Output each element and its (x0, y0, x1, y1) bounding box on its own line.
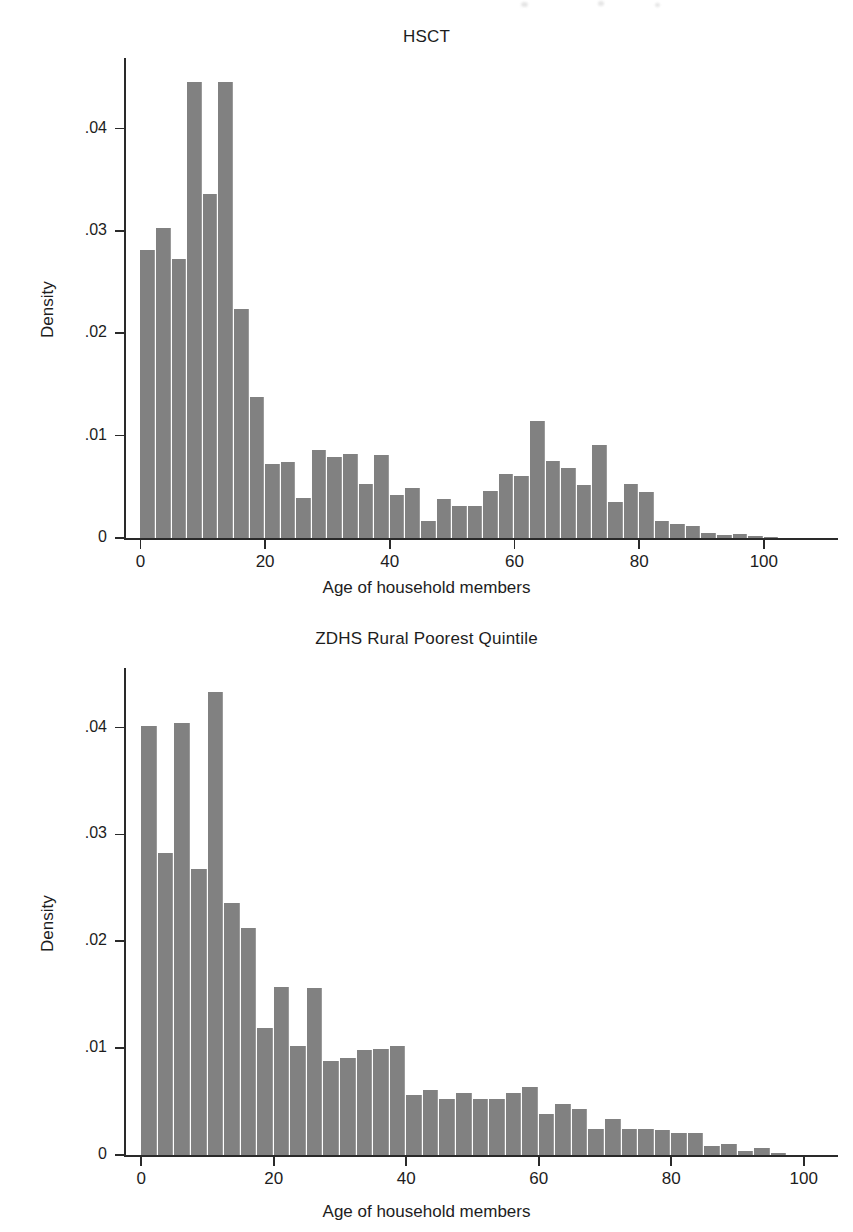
figure-page: HSCT 0.01.02.03.04020406080100Density Ag… (0, 0, 853, 1232)
histogram-bar (592, 445, 608, 538)
histogram-bar (638, 1129, 655, 1155)
x-tick-label: 40 (350, 552, 430, 572)
histogram-bar (748, 536, 764, 538)
histogram-bars (0, 620, 853, 1155)
histogram-bar (174, 723, 191, 1155)
histogram-bar (307, 988, 324, 1155)
histogram-bar (473, 1099, 490, 1155)
x-tick-label: 60 (499, 1169, 579, 1189)
histogram-bar (764, 537, 780, 538)
histogram-bar (423, 1090, 440, 1155)
histogram-bar (624, 484, 640, 538)
x-tick-label: 40 (366, 1169, 446, 1189)
histogram-bar (340, 1058, 357, 1155)
histogram-bar (323, 1061, 340, 1155)
histogram-bar (141, 726, 158, 1155)
histogram-bar (357, 1050, 374, 1155)
x-axis-line (124, 538, 838, 540)
histogram-bar (468, 506, 484, 538)
x-tick-label: 80 (631, 1169, 711, 1189)
x-tick (389, 540, 391, 549)
x-tick (763, 540, 765, 549)
histogram-bar (312, 450, 328, 538)
histogram-bar (203, 194, 219, 538)
x-tick (670, 1157, 672, 1166)
histogram-bar (296, 498, 312, 538)
x-tick (264, 540, 266, 549)
x-tick-label: 80 (599, 552, 679, 572)
histogram-bar (158, 853, 175, 1155)
x-axis-label-zdhs: Age of household members (0, 1202, 853, 1222)
histogram-bar (437, 499, 453, 538)
x-tick (140, 540, 142, 549)
histogram-bar (241, 928, 258, 1155)
histogram-bar (605, 1119, 622, 1155)
histogram-bar (670, 524, 686, 538)
x-tick (538, 1157, 540, 1166)
x-tick-label: 60 (474, 552, 554, 572)
x-tick (273, 1157, 275, 1166)
histogram-bar (250, 397, 266, 538)
histogram-bar (390, 1046, 407, 1155)
histogram-bar (483, 491, 499, 538)
histogram-bar (499, 474, 515, 538)
chart-panel-hsct: HSCT 0.01.02.03.04020406080100Density Ag… (0, 0, 853, 600)
histogram-bar (546, 461, 562, 538)
x-axis-line (124, 1155, 838, 1157)
histogram-bar (281, 462, 297, 538)
histogram-bar (156, 228, 172, 538)
histogram-bar (738, 1151, 755, 1155)
x-axis-label-hsct: Age of household members (0, 578, 853, 598)
histogram-bar (530, 421, 546, 538)
histogram-bar (754, 1148, 771, 1155)
histogram-bar (686, 526, 702, 538)
histogram-bar (733, 534, 749, 538)
histogram-bar (257, 1028, 274, 1155)
histogram-bar (327, 457, 343, 538)
histogram-bar (721, 1144, 738, 1155)
histogram-bar (622, 1129, 639, 1155)
histogram-bar (234, 309, 250, 538)
x-tick-label: 0 (101, 1169, 181, 1189)
x-tick (638, 540, 640, 549)
histogram-bar (588, 1129, 605, 1155)
histogram-bar (421, 521, 437, 538)
histogram-bar (274, 987, 291, 1155)
histogram-bar (140, 250, 156, 538)
histogram-bar (224, 903, 241, 1155)
x-tick-label: 20 (225, 552, 305, 572)
histogram-bar (717, 535, 733, 538)
histogram-bar (771, 1153, 788, 1155)
histogram-bar (655, 521, 671, 538)
histogram-bar (688, 1133, 705, 1155)
histogram-bar (522, 1087, 539, 1155)
histogram-bar (639, 492, 655, 538)
x-tick-label: 100 (724, 552, 804, 572)
histogram-bar (506, 1093, 523, 1155)
plot-area-zdhs: 0.01.02.03.04020406080100Density (0, 620, 853, 1232)
histogram-bar (539, 1114, 556, 1155)
histogram-bar (187, 82, 203, 538)
x-tick (140, 1157, 142, 1166)
chart-panel-zdhs: ZDHS Rural Poorest Quintile 0.01.02.03.0… (0, 620, 853, 1232)
histogram-bar (489, 1099, 506, 1155)
histogram-bar (343, 454, 359, 538)
histogram-bar (374, 455, 390, 538)
histogram-bar (572, 1109, 589, 1155)
plot-area-hsct: 0.01.02.03.04020406080100Density (0, 0, 853, 600)
histogram-bar (452, 506, 468, 538)
histogram-bar (265, 464, 281, 538)
histogram-bar (608, 502, 624, 538)
histogram-bar (172, 259, 188, 538)
histogram-bar (405, 488, 421, 538)
histogram-bar (290, 1046, 307, 1155)
histogram-bar (671, 1133, 688, 1155)
histogram-bar (359, 484, 375, 538)
histogram-bar (555, 1104, 572, 1155)
histogram-bar (561, 468, 577, 538)
histogram-bar (704, 1146, 721, 1155)
histogram-bar (191, 869, 208, 1155)
x-tick (514, 540, 516, 549)
histogram-bar (577, 485, 593, 538)
histogram-bar (456, 1093, 473, 1155)
